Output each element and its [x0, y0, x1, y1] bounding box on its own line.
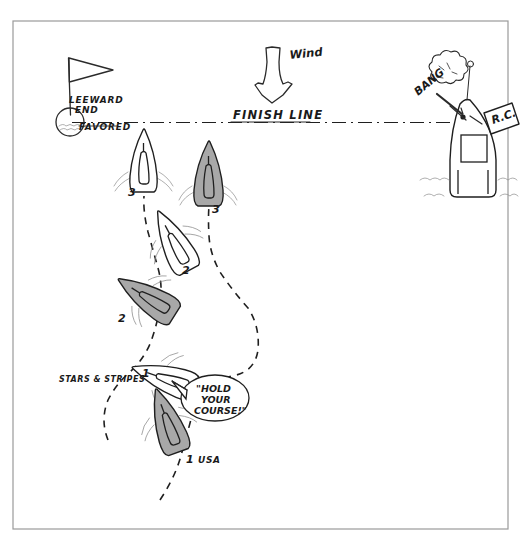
boat-2-gray-number: 2: [118, 312, 126, 325]
boat-3-gray-number: 3: [212, 203, 220, 216]
leeward-end-label-line1: LEEWARD: [69, 95, 124, 105]
speech-bubble-line1: "HOLD: [196, 383, 231, 394]
finish-line-label: FINISH LINE: [233, 108, 323, 122]
sailing-diagram: FINISH LINE Wind LEEWARD END FAVORED: [0, 0, 527, 547]
stars-and-stripes-label: STARS & STRIPES: [59, 375, 145, 384]
wind-arrow: [255, 47, 292, 103]
usa-label: USA: [198, 455, 221, 465]
boat-3-white-number: 3: [128, 186, 136, 199]
boat-2-white-number: 2: [182, 264, 190, 277]
boat-1-gray-number: 1: [186, 453, 194, 466]
speech-bubble-line2: YOUR: [201, 394, 231, 405]
wind-label: Wind: [289, 45, 324, 62]
speech-bubble-line3: COURSE!": [194, 405, 247, 416]
diagram-canvas: FINISH LINE Wind LEEWARD END FAVORED: [0, 0, 527, 547]
bang-label: BANG: [412, 66, 447, 99]
boat-3-gray: [179, 141, 237, 206]
leeward-end-label-line2: END: [75, 105, 99, 115]
boat-3-white: [114, 129, 173, 192]
favored-label: FAVORED: [79, 122, 131, 132]
